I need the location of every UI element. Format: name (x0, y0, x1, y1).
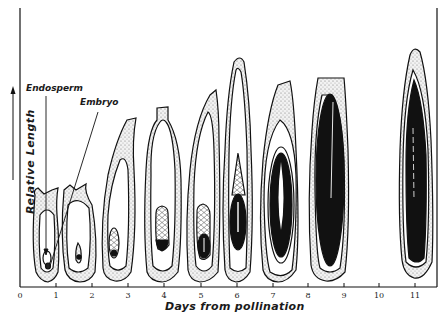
x-tick-label: 4 (161, 291, 166, 300)
x-tick-label: 0 (17, 291, 22, 300)
y-axis-arrow-icon (11, 86, 16, 180)
kernel-day-1.8 (62, 184, 96, 282)
kernel-day-5.2 (187, 90, 220, 282)
kernel-day-8.3 (309, 78, 348, 281)
x-axis-label: Days from pollination (165, 300, 305, 313)
kernel-day-7.2 (261, 81, 299, 282)
x-tick-label: 9 (341, 291, 346, 300)
embryo-label: Embryo (80, 97, 118, 107)
x-tick-label: 1 (53, 291, 58, 300)
seed-development-diagram (0, 0, 443, 320)
kernel-day-6 (223, 58, 252, 282)
x-tick-label: 5 (198, 291, 203, 300)
x-tick-label: 6 (234, 291, 239, 300)
kernel-day-2.6 (102, 118, 136, 281)
x-tick-label: 11 (410, 291, 420, 300)
x-tick-label: 8 (305, 291, 310, 300)
kernel-day-11 (399, 49, 432, 278)
endosperm-label: Endosperm (26, 83, 83, 93)
x-tick-label: 10 (374, 291, 384, 300)
x-tick-label: 2 (89, 291, 94, 300)
x-tick-label: 3 (125, 291, 130, 300)
y-axis-label: Relative Length (24, 109, 37, 214)
kernel-day-4 (145, 107, 181, 282)
x-tick-label: 7 (270, 291, 275, 300)
